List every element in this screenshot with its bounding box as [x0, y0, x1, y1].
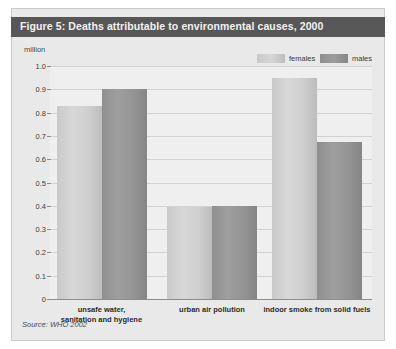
- x-axis-line: [50, 299, 372, 300]
- y-axis-tick-label: 1.0: [22, 62, 46, 71]
- legend-swatch-males: [320, 54, 348, 63]
- y-axis-tick-mark: [47, 229, 51, 230]
- bar-females-group-2: [167, 207, 212, 299]
- y-axis-tick-label: 0.4: [22, 201, 46, 210]
- bar-males-group-2: [212, 206, 257, 299]
- y-axis-tick-mark: [47, 276, 51, 277]
- bar-females-group-3: [272, 78, 317, 299]
- legend-label-males: males: [352, 54, 372, 63]
- y-axis-tick-mark: [47, 136, 51, 137]
- bar-males-group-1: [102, 89, 147, 299]
- source-note: Source: WHO 2002: [22, 320, 87, 329]
- y-axis-tick-label: 0.3: [22, 225, 46, 234]
- bar-females-group-1: [57, 106, 102, 299]
- figure-title-bar: Figure 5: Deaths attributable to environ…: [11, 17, 385, 37]
- y-axis-unit-label: million: [24, 45, 45, 54]
- x-axis-category-label-3: indoor smoke from solid fuels: [247, 305, 387, 315]
- plot-wrapper: million 1.00.90.80.70.60.50.40.30.20.10u…: [22, 44, 374, 316]
- y-axis-tick-label: 0.5: [22, 178, 46, 187]
- page-title: Figure 5: Deaths attributable to environ…: [20, 20, 324, 32]
- gridline: [50, 66, 372, 67]
- plot-area: [50, 66, 372, 299]
- y-axis-tick-label: 0.7: [22, 131, 46, 140]
- figure-container: Figure 5: Deaths attributable to environ…: [0, 0, 396, 349]
- y-axis-tick-mark: [47, 113, 51, 114]
- legend-label-females: females: [289, 54, 315, 63]
- x-axis-category-label-line: indoor smoke from solid fuels: [247, 305, 387, 315]
- y-axis-tick-label: 0.8: [22, 108, 46, 117]
- gridline: [50, 89, 372, 90]
- y-axis-tick-mark: [47, 206, 51, 207]
- y-axis-tick-label: 0.9: [22, 85, 46, 94]
- y-axis-tick-label: 0: [22, 295, 46, 304]
- y-axis-tick-label: 0.1: [22, 271, 46, 280]
- bar-males-group-3: [317, 142, 362, 299]
- y-axis-tick-mark: [47, 66, 51, 67]
- y-axis-tick-label: 0.2: [22, 248, 46, 257]
- y-axis-tick-label: 0.6: [22, 155, 46, 164]
- y-axis-tick-mark: [47, 299, 51, 300]
- y-axis-tick-mark: [47, 183, 51, 184]
- y-axis-tick-mark: [47, 89, 51, 90]
- y-axis-tick-mark: [47, 252, 51, 253]
- legend-swatch-females: [257, 54, 285, 63]
- y-axis-tick-mark: [47, 159, 51, 160]
